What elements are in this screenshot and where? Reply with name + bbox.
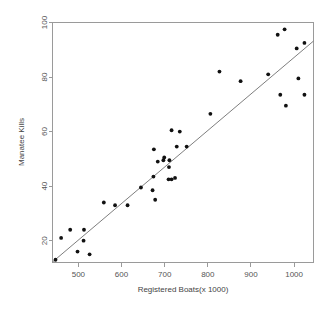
data-point (170, 177, 174, 181)
x-tick-label: 600 (115, 270, 129, 279)
data-point (126, 203, 130, 207)
data-point (303, 41, 307, 45)
data-point (218, 70, 222, 74)
data-point (276, 33, 280, 37)
data-point (139, 186, 143, 190)
data-point (175, 145, 179, 149)
data-point (239, 79, 243, 83)
plot-frame (53, 23, 314, 263)
data-point (266, 72, 270, 76)
data-point (208, 112, 212, 116)
regression-line-group (53, 41, 314, 262)
x-axis-title: Registered Boats(x 1000) (138, 285, 229, 294)
y-axis-ticks: 20406080100 (40, 15, 53, 245)
x-tick-label: 1000 (285, 270, 303, 279)
y-tick-label: 100 (40, 15, 49, 29)
y-tick-label: 80 (40, 72, 49, 81)
data-point (278, 93, 282, 97)
data-point (152, 175, 156, 179)
data-point (151, 188, 155, 192)
data-point (68, 228, 72, 232)
data-point (297, 77, 301, 81)
data-point (178, 130, 182, 134)
data-points-group (54, 27, 307, 261)
data-point (295, 47, 299, 51)
y-tick-label: 20 (40, 236, 49, 245)
data-point (283, 27, 287, 31)
data-point (82, 228, 86, 232)
chart-canvas: 20406080100 5006007008009001000 Register… (0, 0, 328, 314)
axis-frame-path (53, 23, 314, 263)
regression-line (53, 41, 314, 262)
x-axis-ticks: 5006007008009001000 (72, 263, 304, 279)
data-point (82, 239, 86, 243)
data-point (284, 104, 288, 108)
data-point (153, 198, 157, 202)
y-tick-label: 40 (40, 181, 49, 190)
data-point (156, 160, 160, 164)
data-point (168, 158, 172, 162)
y-axis-title: Manatee Kills (17, 118, 26, 166)
data-point (162, 156, 166, 160)
data-point (76, 250, 80, 254)
data-point (59, 236, 63, 240)
data-point (88, 252, 92, 256)
scatter-plot-figure: 20406080100 5006007008009001000 Register… (0, 0, 328, 314)
data-point (303, 93, 307, 97)
data-point (113, 203, 117, 207)
data-point (102, 201, 106, 205)
y-tick-label: 60 (40, 127, 49, 136)
data-point (170, 128, 174, 132)
data-point (185, 145, 189, 149)
x-tick-label: 800 (201, 270, 215, 279)
data-point (173, 176, 177, 180)
data-point (54, 258, 58, 262)
x-tick-label: 500 (72, 270, 86, 279)
x-tick-label: 700 (158, 270, 172, 279)
x-tick-label: 900 (244, 270, 258, 279)
data-point (152, 147, 156, 151)
data-point (167, 165, 171, 169)
